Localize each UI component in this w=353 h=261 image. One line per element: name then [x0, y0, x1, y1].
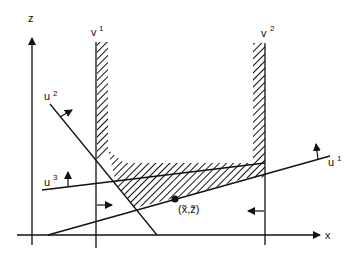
constraint-diagram: z x v 1 v 2 u 2 u 3 u 1 (x̃,z̃) — [0, 0, 353, 261]
u2-superscript: 2 — [53, 89, 58, 98]
v1-label: v — [91, 26, 97, 38]
v2-superscript: 2 — [270, 24, 275, 33]
z-axis-label: z — [28, 12, 34, 24]
hatched-infeasible-regions — [97, 42, 265, 208]
optimal-point — [172, 196, 179, 203]
u1-direction-arrow — [316, 144, 318, 159]
u1-label: u — [328, 156, 334, 168]
v2-label: v — [261, 27, 267, 39]
point-label: (x̃,z̃) — [178, 203, 199, 215]
u2-direction-arrow — [60, 110, 72, 117]
u2-label: u — [44, 90, 50, 102]
x-axis-label: x — [325, 229, 331, 241]
u3-label: u — [44, 176, 50, 188]
v1-superscript: 1 — [99, 24, 104, 33]
u1-superscript: 1 — [337, 154, 342, 163]
u3-superscript: 3 — [53, 173, 58, 182]
